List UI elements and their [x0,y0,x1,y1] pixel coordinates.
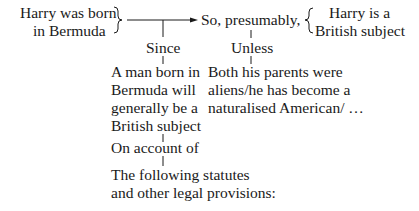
warrant-line-2: Bermuda will [111,81,196,99]
qualifier: So, presumably, [201,11,300,29]
warrant-line-4: British subject [111,117,201,135]
backing-label: On account of [111,139,199,157]
conclusion-line-2: British subject [315,22,405,40]
right-brace-icon [305,8,313,33]
data-line-2: in Bermuda [33,22,106,40]
backing-line-1: The following statutes [111,166,250,184]
data-line-1: Harry was born [20,4,116,22]
rebuttal-line-3: naturalised American/ … [208,99,364,117]
rebuttal-line-1: Both his parents were [208,63,343,81]
rebuttal-line-2: aliens/he has become a [208,81,350,99]
conclusion-line-1: Harry is a [329,4,390,22]
warrant-line-3: generally be a [111,99,198,117]
warrant-label: Since [146,39,180,57]
rebuttal-label: Unless [231,39,273,57]
warrant-line-1: A man born in [111,63,200,81]
arrowhead-icon [190,18,198,23]
backing-line-2: and other legal provisions: [111,184,276,202]
